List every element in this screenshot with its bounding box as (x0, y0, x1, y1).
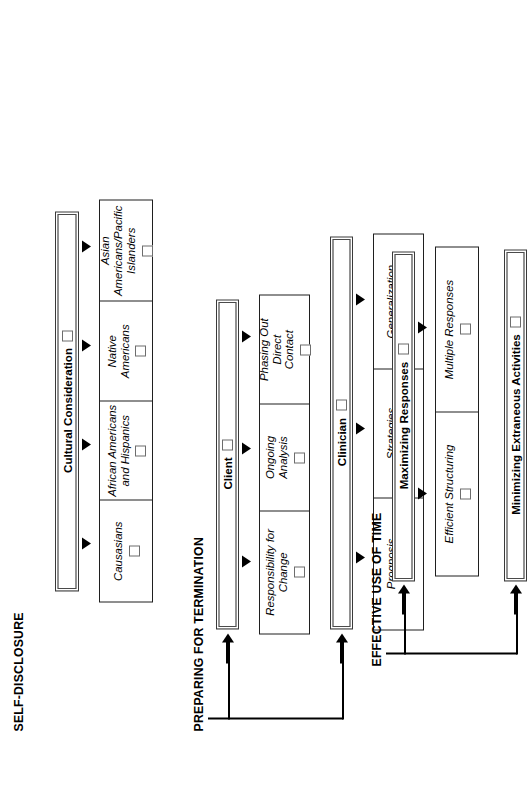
child-box-african-americans-and-hispanics[interactable]: African Americans and Hispanics (100, 400, 152, 500)
arrow-to-causasians (82, 537, 91, 549)
child-row-cultural-consideration: Causasians African Americans and Hispani… (99, 199, 153, 602)
checkbox-causasians[interactable] (129, 545, 140, 556)
arrow-head-time-minimizing (510, 584, 522, 593)
arrow-to-strategies (356, 422, 365, 434)
parent-box-content-clinician: Clinician (335, 399, 348, 465)
connector-shaft-time-maximizing (402, 592, 407, 614)
parent-box-content-maximizing-responses: Maximizing Responses (397, 343, 410, 489)
parent-box-maximizing-responses[interactable]: Maximizing Responses (392, 251, 415, 581)
parent-box-cultural-consideration[interactable]: Cultural Consideration (55, 211, 79, 591)
child-label-native-americans: Native Americans (106, 324, 132, 378)
checkbox-minimizing-extraneous-activities[interactable] (510, 316, 521, 327)
checkbox-cultural-consideration[interactable] (62, 330, 73, 341)
arrow-to-responsibility-for-change (242, 555, 251, 567)
arrow-to-asian-americans-pacific-islanders (82, 240, 91, 252)
parent-box-clinician[interactable]: Clinician (330, 236, 353, 629)
arrow-to-efficient-structuring (418, 487, 427, 499)
checkbox-client[interactable] (222, 439, 233, 450)
section-title-effective-use-of-time: EFFECTIVE USE OF TIME (370, 512, 384, 666)
parent-label-maximizing-responses: Maximizing Responses (397, 361, 410, 489)
child-label-responsibility-for-change: Responsibility for Change (264, 529, 290, 616)
parent-box-minimizing-extraneous-activities[interactable]: Minimizing Extraneous Activities (504, 249, 527, 581)
checkbox-phasing-out-direct-contact[interactable] (300, 344, 311, 355)
arrow-head-termination-client (222, 633, 234, 642)
arrow-to-ongoing-analysis (242, 442, 251, 454)
worksheet-sheet: SELF-DISCLOSURE Cultural Consideration C… (0, 0, 530, 791)
child-label-causasians: Causasians (112, 521, 125, 581)
child-label-efficient-structuring: Efficient Structuring (443, 444, 456, 543)
child-label-african-americans-and-hispanics: African Americans and Hispanics (106, 404, 132, 496)
checkbox-responsibility-for-change[interactable] (294, 566, 305, 577)
checkbox-maximizing-responses[interactable] (398, 343, 409, 354)
child-box-native-americans[interactable]: Native Americans (100, 301, 152, 401)
checkbox-clinician[interactable] (336, 399, 347, 410)
arrow-to-prognosis (356, 551, 365, 563)
checkbox-efficient-structuring[interactable] (460, 488, 471, 499)
checkbox-ongoing-analysis[interactable] (294, 452, 305, 463)
parent-box-content-client: Client (221, 439, 234, 489)
checkbox-asian-americans-pacific-islanders[interactable] (142, 245, 153, 256)
child-label-ongoing-analysis: Ongoing Analysis (264, 436, 290, 479)
parent-label-minimizing-extraneous-activities: Minimizing Extraneous Activities (509, 334, 522, 515)
child-box-ongoing-analysis[interactable]: Ongoing Analysis (260, 403, 309, 509)
section-title-preparing-for-termination: PREPARING FOR TERMINATION (192, 537, 206, 731)
connector-shaft-termination-client (226, 641, 231, 663)
child-row-client: Responsibility for Change Ongoing Analys… (259, 294, 310, 634)
child-box-phasing-out-direct-contact[interactable]: Phasing Out Direct Contact (260, 295, 309, 403)
child-box-efficient-structuring[interactable]: Efficient Structuring (436, 411, 478, 575)
child-row-maximizing-responses: Efficient Structuring Multiple Responses (435, 246, 479, 576)
arrow-to-multiple-responses (418, 321, 427, 333)
parent-label-cultural-consideration: Cultural Consideration (61, 348, 74, 473)
child-label-multiple-responses: Multiple Responses (443, 279, 456, 378)
child-label-phasing-out-direct-contact: Phasing Out Direct Contact (258, 318, 296, 381)
arrow-to-native-americans (82, 339, 91, 351)
parent-box-content-minimizing-extraneous-activities: Minimizing Extraneous Activities (509, 316, 522, 515)
arrow-head-time-maximizing (398, 584, 410, 593)
child-box-responsibility-for-change[interactable]: Responsibility for Change (260, 510, 309, 633)
checkbox-multiple-responses[interactable] (460, 324, 471, 335)
connector-shaft-termination-clinician (340, 641, 345, 663)
parent-label-client: Client (221, 457, 234, 489)
checkbox-native-americans[interactable] (135, 345, 146, 356)
parent-box-client[interactable]: Client (216, 299, 239, 629)
arrow-to-generalization (356, 293, 365, 305)
checkbox-african-americans-and-hispanics[interactable] (135, 445, 146, 456)
child-label-asian-americans-pacific-islanders: Asian Americans/Pacific Islanders (99, 205, 137, 296)
arrow-to-phasing-out-direct-contact (242, 330, 251, 342)
child-box-causasians[interactable]: Causasians (100, 500, 152, 602)
child-box-asian-americans-pacific-islanders[interactable]: Asian Americans/Pacific Islanders (100, 200, 152, 301)
section-title-self-disclosure: SELF-DISCLOSURE (12, 612, 26, 731)
child-box-multiple-responses[interactable]: Multiple Responses (436, 247, 478, 411)
connector-shaft-time-minimizing (514, 592, 519, 614)
arrow-to-african-americans-and-hispanics (82, 438, 91, 450)
arrow-head-termination-clinician (336, 633, 348, 642)
parent-label-clinician: Clinician (335, 417, 348, 465)
parent-box-content: Cultural Consideration (61, 330, 74, 473)
